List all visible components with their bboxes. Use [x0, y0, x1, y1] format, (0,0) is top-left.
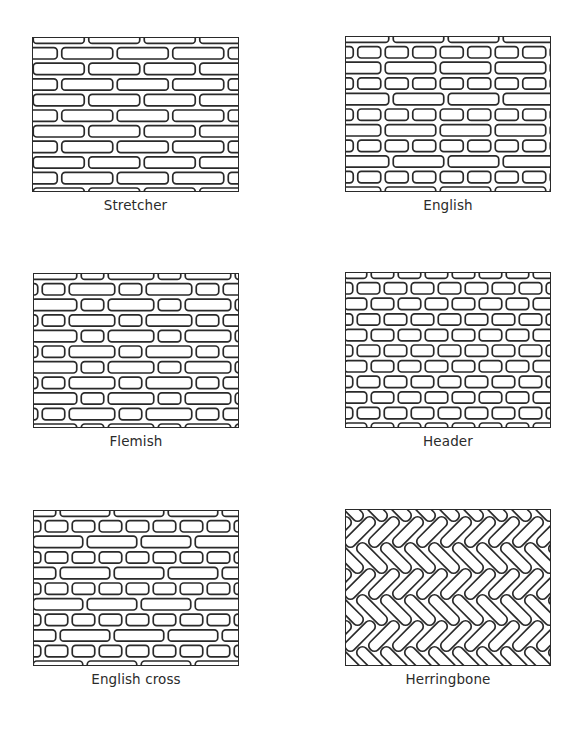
header-brick-pattern — [346, 273, 551, 428]
stretcher-brick-pattern — [33, 38, 239, 192]
english-bond-diagram — [345, 36, 551, 192]
english-brick-pattern — [346, 37, 551, 192]
flemish-brick-pattern — [34, 274, 239, 428]
herringbone-brick-pattern — [346, 510, 551, 666]
english-cross-label: English cross — [33, 671, 239, 687]
stretcher-bond-diagram — [32, 37, 239, 192]
herringbone-bond-diagram — [345, 509, 551, 666]
english-label: English — [345, 197, 551, 213]
english-cross-brick-pattern — [34, 511, 239, 666]
english-cross-bond-diagram — [33, 510, 239, 666]
header-label: Header — [345, 433, 551, 449]
header-bond-diagram — [345, 272, 551, 428]
flemish-bond-diagram — [33, 273, 239, 428]
herringbone-label: Herringbone — [345, 671, 551, 687]
stretcher-label: Stretcher — [32, 197, 239, 213]
flemish-label: Flemish — [33, 433, 239, 449]
